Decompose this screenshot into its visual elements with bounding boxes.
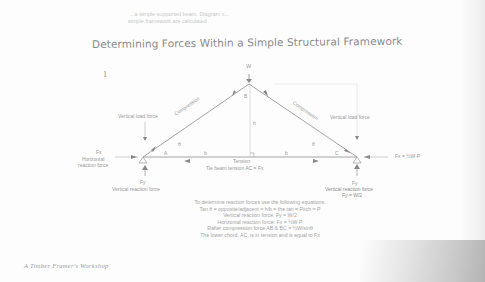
right-rafter: [249, 84, 357, 157]
label-node-a: A: [164, 151, 167, 157]
label-left-vertical-load: Vertical load force: [118, 114, 158, 120]
equation-line: Rafter compression force AB & BC = ½W/si…: [150, 225, 370, 232]
label-left-fy: Fy: [140, 180, 146, 186]
label-tie-beam: Tie beam tension AC = Fx: [206, 166, 263, 172]
label-node-b: B: [244, 94, 247, 100]
label-height-h: h: [253, 121, 256, 127]
left-fx-arrow: [131, 155, 137, 159]
equation-line: The lower chord, AC, is in tension and i…: [150, 232, 370, 239]
right-fy-arrow: [354, 164, 360, 169]
label-right-vertical-load: Vertical load force: [330, 115, 370, 121]
tie-arrow-left: [184, 159, 190, 163]
label-node-c: C: [335, 151, 339, 157]
right-vertical-load-arrow: [355, 136, 359, 140]
label-left-vertical-reaction: Vertical reaction force: [112, 187, 160, 193]
right-support: [353, 157, 361, 163]
left-support: [139, 157, 147, 163]
running-footer: A Timber Framer's Workshop: [24, 262, 109, 269]
label-horizontal-reaction: Horizontal reaction force: [78, 157, 108, 168]
label-angle-right: θ: [312, 142, 315, 148]
book-page: ...a simple supported beam. Diagram x...…: [0, 0, 485, 282]
equation-line: Horizontal reaction force: Fx = ½W·P: [150, 219, 370, 226]
label-left-fx: Fx: [96, 150, 102, 156]
label-right-fx: Fx = ½W·P: [395, 154, 420, 160]
label-half-span-right: b: [285, 151, 288, 157]
label-right-fy-equation: Fy = W/2: [342, 193, 362, 199]
equations-block: To determine reaction forces use the fol…: [150, 199, 370, 239]
left-vertical-load-arrow: [143, 137, 147, 141]
page-curl-shadow: [360, 240, 485, 282]
equation-line: To determine reaction forces use the fol…: [150, 199, 370, 206]
label-angle-left: θ: [178, 142, 181, 148]
label-half-span-left: b: [204, 151, 207, 157]
tie-arrow-right: [313, 159, 319, 163]
label-w: W: [246, 64, 251, 70]
left-fy-arrow: [142, 165, 148, 170]
right-rafter-arrow-lower: [344, 149, 350, 153]
equation-line: Tan θ = opposite/adjacent = h/b = the ta…: [150, 206, 370, 213]
equation-line: Vertical reaction force: Fy = W/2: [150, 212, 370, 219]
right-fx-arrow: [364, 155, 370, 159]
label-tension: Tension: [233, 159, 250, 165]
right-angle-marker: [250, 153, 254, 157]
load-w-arrow: [246, 79, 252, 83]
